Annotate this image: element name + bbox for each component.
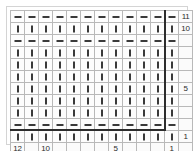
cell-knit[interactable] — [11, 107, 25, 119]
cell-knit[interactable] — [137, 107, 151, 119]
cell-knit[interactable] — [165, 83, 179, 95]
cell-knit[interactable] — [67, 95, 81, 107]
cell-knit[interactable] — [11, 71, 25, 83]
cell-knit[interactable] — [81, 59, 95, 71]
cell-knit[interactable] — [25, 95, 39, 107]
cell-purl[interactable] — [137, 35, 151, 47]
cell-knit[interactable] — [123, 47, 137, 59]
cell-purl[interactable] — [53, 119, 67, 131]
cell-purl[interactable] — [39, 119, 53, 131]
cell-knit[interactable] — [109, 59, 123, 71]
cell-knit[interactable] — [53, 131, 67, 143]
cell-knit[interactable] — [53, 47, 67, 59]
cell-purl[interactable] — [109, 119, 123, 131]
cell-purl[interactable] — [109, 35, 123, 47]
cell-knit[interactable] — [165, 71, 179, 83]
cell-knit[interactable] — [39, 83, 53, 95]
cell-knit[interactable] — [53, 59, 67, 71]
cell-knit[interactable] — [67, 23, 81, 35]
cell-knit[interactable] — [11, 47, 25, 59]
cell-knit[interactable] — [95, 95, 109, 107]
cell-knit[interactable] — [151, 71, 165, 83]
cell-purl[interactable] — [151, 119, 165, 131]
cell-knit[interactable] — [165, 59, 179, 71]
cell-purl[interactable] — [11, 11, 25, 23]
cell-purl[interactable] — [53, 35, 67, 47]
cell-purl[interactable] — [53, 11, 67, 23]
cell-knit[interactable] — [81, 71, 95, 83]
cell-knit[interactable] — [165, 131, 179, 143]
cell-knit[interactable] — [39, 107, 53, 119]
cell-knit[interactable] — [109, 83, 123, 95]
cell-knit[interactable] — [39, 95, 53, 107]
cell-knit[interactable] — [109, 95, 123, 107]
cell-knit[interactable] — [137, 71, 151, 83]
cell-knit[interactable] — [123, 59, 137, 71]
cell-knit[interactable] — [109, 107, 123, 119]
cell-knit[interactable] — [151, 47, 165, 59]
cell-knit[interactable] — [53, 71, 67, 83]
cell-purl[interactable] — [95, 35, 109, 47]
cell-knit[interactable] — [81, 47, 95, 59]
cell-knit[interactable] — [95, 83, 109, 95]
cell-purl[interactable] — [67, 35, 81, 47]
cell-purl[interactable] — [67, 11, 81, 23]
cell-knit[interactable] — [81, 95, 95, 107]
cell-knit[interactable] — [137, 131, 151, 143]
cell-knit[interactable] — [11, 59, 25, 71]
cell-knit[interactable] — [137, 95, 151, 107]
cell-purl[interactable] — [123, 119, 137, 131]
cell-knit[interactable] — [25, 83, 39, 95]
cell-purl[interactable] — [137, 11, 151, 23]
cell-knit[interactable] — [25, 59, 39, 71]
cell-purl[interactable] — [11, 119, 25, 131]
cell-purl[interactable] — [151, 35, 165, 47]
cell-knit[interactable] — [25, 23, 39, 35]
cell-knit[interactable] — [123, 23, 137, 35]
cell-purl[interactable] — [109, 11, 123, 23]
cell-knit[interactable] — [165, 47, 179, 59]
cell-purl[interactable] — [165, 11, 179, 23]
cell-knit[interactable] — [151, 107, 165, 119]
cell-knit[interactable] — [53, 95, 67, 107]
cell-knit[interactable] — [81, 107, 95, 119]
cell-knit[interactable] — [39, 131, 53, 143]
cell-knit[interactable] — [137, 23, 151, 35]
cell-purl[interactable] — [11, 35, 25, 47]
cell-knit[interactable] — [53, 107, 67, 119]
cell-purl[interactable] — [165, 35, 179, 47]
cell-knit[interactable] — [81, 131, 95, 143]
cell-knit[interactable] — [165, 107, 179, 119]
cell-knit[interactable] — [11, 23, 25, 35]
cell-knit[interactable] — [123, 107, 137, 119]
cell-knit[interactable] — [95, 131, 109, 143]
cell-knit[interactable] — [39, 47, 53, 59]
cell-knit[interactable] — [81, 83, 95, 95]
cell-knit[interactable] — [53, 83, 67, 95]
cell-knit[interactable] — [67, 131, 81, 143]
cell-purl[interactable] — [81, 119, 95, 131]
cell-knit[interactable] — [137, 83, 151, 95]
cell-purl[interactable] — [151, 11, 165, 23]
cell-knit[interactable] — [123, 95, 137, 107]
cell-knit[interactable] — [11, 131, 25, 143]
cell-knit[interactable] — [137, 59, 151, 71]
cell-knit[interactable] — [151, 83, 165, 95]
cell-purl[interactable] — [165, 119, 179, 131]
cell-knit[interactable] — [25, 71, 39, 83]
cell-purl[interactable] — [81, 11, 95, 23]
cell-purl[interactable] — [95, 119, 109, 131]
cell-purl[interactable] — [95, 11, 109, 23]
cell-knit[interactable] — [123, 83, 137, 95]
cell-knit[interactable] — [81, 23, 95, 35]
cell-knit[interactable] — [67, 83, 81, 95]
cell-purl[interactable] — [39, 11, 53, 23]
cell-knit[interactable] — [67, 71, 81, 83]
cell-knit[interactable] — [151, 131, 165, 143]
cell-knit[interactable] — [151, 23, 165, 35]
cell-purl[interactable] — [123, 11, 137, 23]
cell-knit[interactable] — [109, 23, 123, 35]
cell-knit[interactable] — [39, 23, 53, 35]
cell-knit[interactable] — [67, 47, 81, 59]
cell-purl[interactable] — [39, 35, 53, 47]
